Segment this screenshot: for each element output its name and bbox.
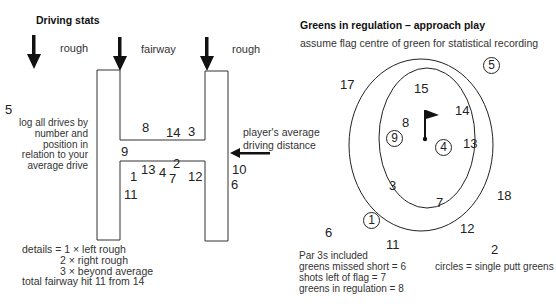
single-putt-shot: 5 <box>483 57 500 74</box>
circled-number: 9 <box>386 130 403 147</box>
driving-stats-title: Driving stats <box>36 14 100 26</box>
drive-number: 2 <box>173 157 180 170</box>
circled-number: 5 <box>483 57 500 74</box>
details-total-fairway: total fairway hit 11 from 14 <box>22 276 153 287</box>
details-right-rough: 2 × right rough <box>22 255 153 266</box>
approach-shot: 8 <box>402 116 409 129</box>
drive-number: 3 <box>188 125 195 138</box>
left-rough-label: rough <box>60 42 88 54</box>
fairway-left-arrow-icon <box>113 37 127 71</box>
drive-number: 8 <box>142 121 149 134</box>
single-putt-shot: 9 <box>386 130 403 147</box>
average-distance-label: player's average driving distance <box>243 126 320 152</box>
circled-number: 1 <box>363 212 380 229</box>
approach-shot: 17 <box>340 78 354 91</box>
drive-number: 12 <box>188 170 202 183</box>
approach-shot: 14 <box>455 104 469 117</box>
approach-shot: 7 <box>436 196 443 209</box>
approach-shot: 2 <box>491 243 498 256</box>
note-left-of-flag: shots left of flag = 7 <box>299 272 406 283</box>
driving-details: details = 1 × left rough 2 × right rough… <box>22 244 153 287</box>
approach-shot: 18 <box>497 189 511 202</box>
note-gir: greens in regulation = 8 <box>299 283 406 294</box>
average-label-line2: driving distance <box>243 139 320 152</box>
greens-notes: Par 3s included greens missed short = 6 … <box>299 250 406 294</box>
circles-legend: circles = single putt greens <box>435 261 554 272</box>
drive-number: 11 <box>124 188 138 201</box>
drive-number: 7 <box>169 172 176 185</box>
note-par3: Par 3s included <box>299 250 406 261</box>
circled-number: 4 <box>435 139 452 156</box>
flag-icon <box>423 110 439 141</box>
drive-number: 14 <box>166 126 180 139</box>
drive-number: 9 <box>121 145 128 158</box>
approach-shot: 3 <box>389 179 396 192</box>
note-missed-short: greens missed short = 6 <box>299 261 406 272</box>
drive-number: 4 <box>159 166 166 179</box>
single-putt-shot: 1 <box>363 212 380 229</box>
driving-instructions: log all drives by number and position in… <box>19 118 88 172</box>
approach-shot: 15 <box>414 82 428 95</box>
average-label-line1: player's average <box>243 126 320 139</box>
approach-shot: 13 <box>463 137 477 150</box>
drive-number: 13 <box>141 163 155 176</box>
left-rough-arrow-icon <box>27 35 41 69</box>
fairway-h-outline <box>97 70 228 241</box>
instruction-line: average drive <box>19 161 88 172</box>
greens-subtitle: assume flag centre of green for statisti… <box>300 37 538 49</box>
approach-shot: 12 <box>460 222 474 235</box>
approach-shot: 6 <box>325 226 332 239</box>
fairway-label: fairway <box>141 43 176 55</box>
fairway-right-arrow-icon <box>200 37 214 71</box>
instruction-line: number and <box>19 129 88 140</box>
drive-number: 10 <box>232 163 246 176</box>
greens-title: Greens in regulation – approach play <box>300 19 485 31</box>
single-putt-shot: 4 <box>435 139 452 156</box>
right-rough-label: rough <box>232 43 260 55</box>
drive-number: 5 <box>5 103 12 116</box>
drive-number: 6 <box>231 178 238 191</box>
drive-number: 1 <box>130 170 137 183</box>
